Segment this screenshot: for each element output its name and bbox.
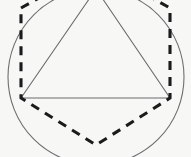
inscribed-triangle — [21, 0, 170, 98]
dashed-hexagon — [21, 0, 170, 145]
geometry-figure-container — [0, 0, 191, 157]
geometry-figure-svg — [0, 0, 191, 157]
